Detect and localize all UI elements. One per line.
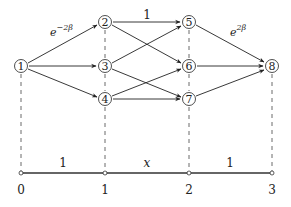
svg-text:8: 8 [269, 60, 276, 73]
edge-label-2-5: 1 [143, 8, 151, 22]
edge-7-8 [196, 70, 264, 96]
edge-label-5-8: e2β [230, 23, 247, 39]
node-4: 4 [99, 93, 112, 107]
segment-label-1: 1 [59, 156, 67, 170]
node-6: 6 [183, 60, 196, 74]
edge-label-1-2: e−2β [50, 23, 73, 39]
node-8: 8 [266, 60, 279, 74]
tick-label-2: 2 [185, 183, 193, 197]
node-7: 7 [183, 93, 196, 107]
edges [28, 22, 264, 99]
axis-point-2 [187, 171, 191, 175]
svg-text:1: 1 [18, 60, 25, 73]
axis-point-3 [270, 171, 274, 175]
svg-text:6: 6 [186, 60, 193, 73]
tick-label-0: 0 [17, 183, 25, 197]
node-3: 3 [99, 60, 112, 74]
axis-point-1 [103, 171, 107, 175]
node-1: 1 [15, 60, 28, 74]
network-diagram: 1 2 3 4 5 6 7 8 e−2β 1 e2β 1 x [0, 0, 291, 207]
node-2: 2 [99, 16, 112, 30]
segment-label-x: x [144, 156, 151, 170]
svg-text:5: 5 [186, 16, 193, 29]
segment-label-3: 1 [226, 156, 234, 170]
svg-text:2: 2 [102, 16, 109, 29]
svg-text:4: 4 [102, 93, 109, 106]
tick-label-1: 1 [101, 183, 109, 197]
node-5: 5 [183, 16, 196, 30]
axis-point-0 [19, 171, 23, 175]
dashed-guides [21, 30, 272, 171]
tick-label-3: 3 [268, 183, 276, 197]
axis: 1 x 1 0 1 2 3 [17, 156, 276, 197]
edge-1-4 [28, 69, 97, 97]
svg-text:7: 7 [186, 93, 193, 106]
svg-text:3: 3 [102, 60, 109, 73]
